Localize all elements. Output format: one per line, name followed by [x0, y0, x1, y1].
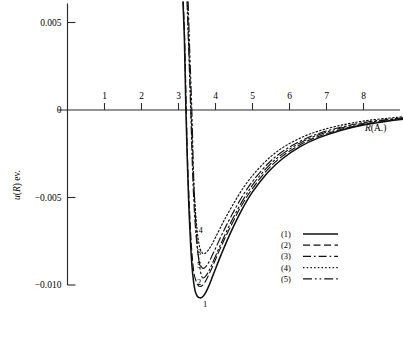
curve-label-1: 1 [203, 299, 207, 309]
potential-energy-curve-plot: 123456780.0050−0.005−0.010u(R) ev.R(A.)1… [0, 0, 403, 341]
curve-label-3: 3 [197, 247, 201, 257]
x-tick-label: 8 [361, 91, 366, 101]
y-tick-label: 0.005 [40, 18, 62, 28]
axes: 123456780.0050−0.005−0.010 [35, 4, 400, 291]
legend-label-2: (2) [281, 240, 291, 250]
curve-label-2: 2 [197, 277, 201, 287]
curve-label-5: 5 [197, 260, 201, 270]
y-tick-label: −0.010 [35, 280, 62, 290]
x-tick-label: 4 [213, 91, 218, 101]
curve-1 [183, 2, 403, 298]
chart-figure: 123456780.0050−0.005−0.010u(R) ev.R(A.)1… [0, 0, 403, 341]
x-tick-label: 7 [324, 91, 329, 101]
y-tick-label: 0 [57, 105, 62, 115]
x-tick-label: 6 [287, 91, 292, 101]
curve-group [183, 2, 403, 298]
y-tick-label: −0.005 [35, 193, 62, 203]
curve-label-4: 4 [199, 225, 204, 235]
legend: (1)(2)(3)(4)(5) [281, 229, 338, 284]
x-tick-label: 3 [176, 91, 181, 101]
x-tick-label: 1 [102, 91, 107, 101]
x-tick-label: 5 [250, 91, 255, 101]
legend-label-1: (1) [281, 229, 291, 239]
legend-label-4: (4) [281, 263, 291, 273]
y-axis-title: u(R) ev. [12, 170, 23, 200]
curve-2 [183, 2, 403, 287]
legend-label-3: (3) [281, 251, 291, 261]
x-tick-label: 2 [139, 91, 144, 101]
curve-3 [187, 2, 403, 269]
legend-label-5: (5) [281, 274, 291, 284]
